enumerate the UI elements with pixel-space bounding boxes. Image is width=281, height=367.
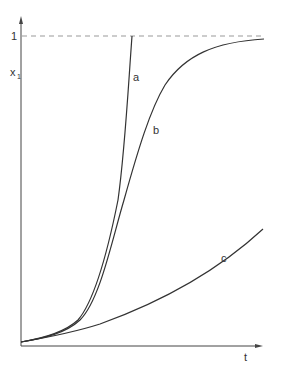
tick-label-one: 1 xyxy=(11,30,17,42)
chart-canvas: 1 x 1 t a b c xyxy=(0,0,281,367)
curve-c-label: c xyxy=(221,252,227,264)
curve-b xyxy=(21,39,264,342)
curve-a-label: a xyxy=(133,71,140,83)
curve-c xyxy=(21,229,263,342)
x-axis-label: t xyxy=(244,351,247,363)
curve-b-label: b xyxy=(153,124,159,136)
x-axis-arrow-icon xyxy=(255,344,263,348)
y-axis-arrow-icon xyxy=(19,16,23,24)
y-axis-label: x xyxy=(10,66,16,78)
y-axis-label-subscript: 1 xyxy=(17,73,21,80)
curve-a xyxy=(21,36,132,342)
